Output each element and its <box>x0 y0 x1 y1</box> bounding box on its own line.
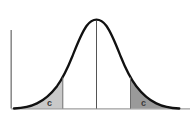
bell-curve-figure: c c <box>0 0 192 121</box>
left-tail-label: c <box>47 98 52 108</box>
normal-distribution-chart: c c <box>0 0 192 121</box>
right-tail-label: c <box>141 98 146 108</box>
